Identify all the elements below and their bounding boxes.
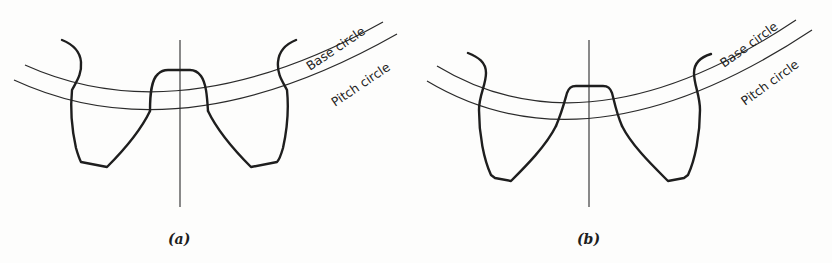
left-tooth-flank	[468, 53, 556, 181]
panel-a: Base circle Pitch circle (a)	[14, 22, 397, 247]
panel-b: Base circle Pitch circle (b)	[427, 18, 812, 247]
base-circle-arc	[437, 20, 796, 103]
panel-b-caption: (b)	[577, 231, 600, 247]
pitch-circle-label: Pitch circle	[738, 56, 802, 108]
base-circle-label: Base circle	[303, 23, 368, 73]
left-tooth-flank	[62, 40, 150, 167]
right-tooth-flank	[622, 54, 711, 181]
base-circle-label: Base circle	[717, 18, 781, 70]
gear-tooth-diagram: Base circle Pitch circle (a) Base circle…	[0, 0, 832, 263]
pitch-circle-label: Pitch circle	[328, 59, 393, 109]
right-tooth-flank	[208, 40, 296, 167]
panel-a-caption: (a)	[168, 231, 190, 247]
